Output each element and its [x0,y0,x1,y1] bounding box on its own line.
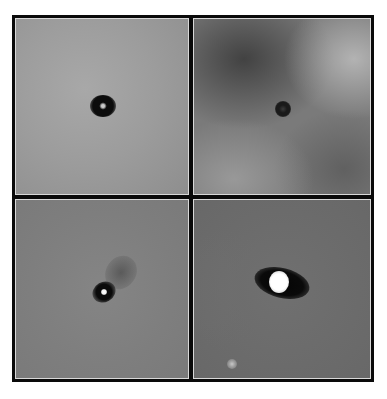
panel-bottom-left [15,199,189,379]
figure-frame [12,15,374,382]
faint-point-source [227,359,237,369]
bright-core [101,289,107,295]
small-dark-ring-source [275,101,291,117]
panel-top-right [193,18,371,195]
panel-bottom-right [193,199,371,379]
dark-ring-source [90,95,116,117]
bright-white-core [269,271,289,293]
panel-top-left [15,18,189,195]
